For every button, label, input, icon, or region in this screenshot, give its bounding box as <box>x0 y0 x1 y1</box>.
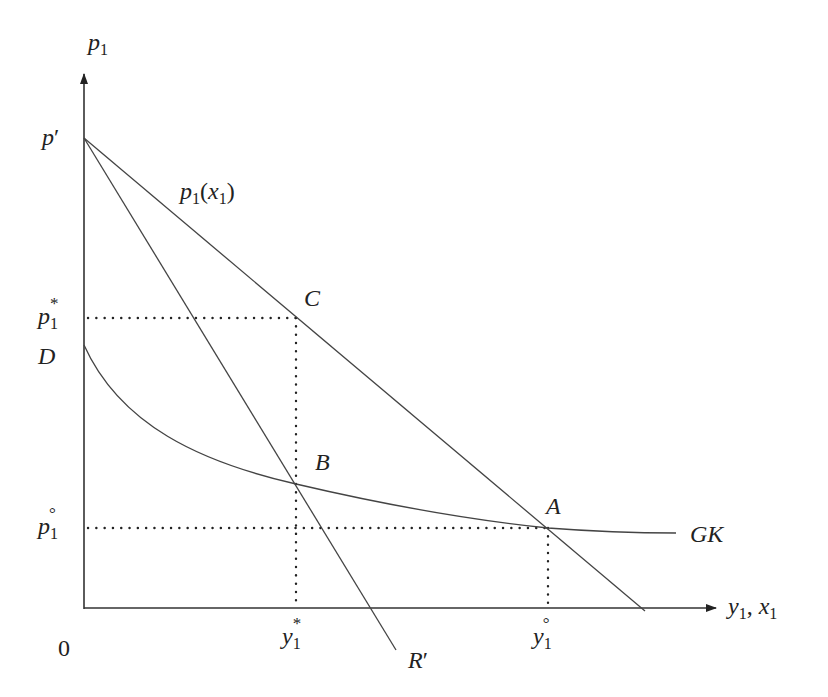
point-b-label: B <box>315 449 330 475</box>
average-cost-label: GK <box>690 521 725 547</box>
economics-diagram: p1 y1,x1 0 p′ p1* D p1° y1* y1° p1(x1) R… <box>0 0 828 697</box>
p-circ-label: p1° <box>36 504 58 542</box>
origin-label: 0 <box>58 635 70 661</box>
y-circ-label: y1° <box>531 614 552 652</box>
marginal-revenue-label: R′ <box>407 647 428 673</box>
demand-curve-label: p1(x1) <box>178 178 235 207</box>
marginal-revenue-curve <box>84 138 396 650</box>
p-star-label: p1* <box>36 294 59 332</box>
p-prime-label: p′ <box>40 124 59 150</box>
demand-curve <box>84 138 645 611</box>
y-star-label: y1* <box>280 614 301 652</box>
d-label: D <box>37 343 55 369</box>
point-a-label: A <box>544 493 561 519</box>
average-cost-curve <box>84 345 676 533</box>
y-axis-label: p1 <box>86 29 108 58</box>
x-axis-label: y1,x1 <box>726 593 777 622</box>
point-c-label: C <box>304 285 321 311</box>
